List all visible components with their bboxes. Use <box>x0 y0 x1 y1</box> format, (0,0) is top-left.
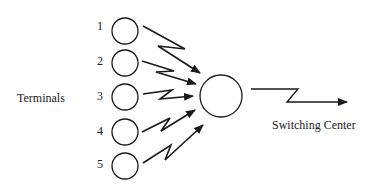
link-arrow-1 <box>143 26 200 73</box>
hub-node <box>200 75 242 117</box>
link-arrow-switching-center <box>251 89 347 102</box>
link-arrow-4 <box>142 110 195 132</box>
link-arrow-3 <box>143 90 193 99</box>
terminal-node-1 <box>112 18 138 44</box>
terminal-node-4 <box>112 119 138 145</box>
terminal-label-3: 3 <box>97 90 103 102</box>
terminal-label-1: 1 <box>97 20 103 32</box>
link-arrow-5 <box>143 125 203 163</box>
terminals-group-label: Terminals <box>17 92 65 104</box>
terminal-node-5 <box>112 153 138 179</box>
terminal-label-2: 2 <box>97 55 103 67</box>
switching-center-label: Switching Center <box>272 119 356 131</box>
terminal-label-5: 5 <box>97 158 103 170</box>
terminal-node-2 <box>112 50 138 76</box>
terminal-node-3 <box>112 84 138 110</box>
terminal-label-4: 4 <box>97 125 103 137</box>
